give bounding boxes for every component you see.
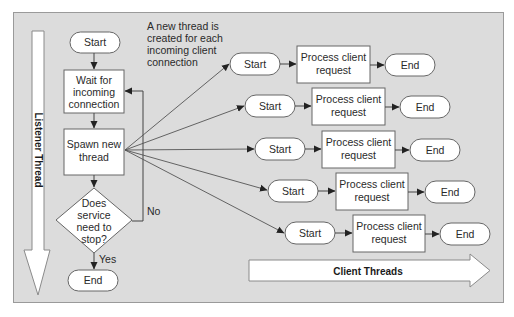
svg-text:connection: connection — [147, 56, 198, 68]
client-threads-label: Client Threads — [333, 266, 403, 277]
svg-text:Wait for: Wait for — [76, 74, 112, 86]
svg-text:End: End — [426, 144, 445, 156]
svg-text:service: service — [77, 209, 110, 221]
svg-text:Start: Start — [282, 185, 304, 197]
svg-text:Process client: Process client — [301, 51, 366, 63]
yes-label: Yes — [99, 253, 116, 265]
svg-text:incoming: incoming — [73, 86, 115, 98]
svg-text:End: End — [441, 186, 460, 198]
svg-text:request: request — [371, 233, 406, 245]
svg-text:Start: Start — [244, 58, 266, 70]
svg-text:request: request — [331, 106, 366, 118]
svg-text:need to: need to — [76, 221, 111, 233]
listener-thread-label: Listener Thread — [33, 112, 44, 187]
svg-text:Process client: Process client — [326, 136, 391, 148]
svg-text:Process client: Process client — [316, 93, 381, 105]
svg-text:request: request — [354, 191, 389, 203]
svg-text:request: request — [341, 149, 376, 161]
svg-text:End: End — [84, 274, 103, 286]
svg-text:A new thread is: A new thread is — [147, 20, 219, 32]
no-label: No — [147, 205, 161, 217]
svg-text:End: End — [456, 228, 475, 240]
svg-text:request: request — [316, 64, 351, 76]
svg-text:created for each: created for each — [147, 32, 223, 44]
svg-text:Start: Start — [269, 143, 291, 155]
svg-text:Spawn new: Spawn new — [67, 138, 122, 150]
svg-text:End: End — [401, 59, 420, 71]
svg-text:incoming client: incoming client — [147, 44, 217, 56]
svg-text:Start: Start — [84, 36, 106, 48]
client-server-thread-diagram: Listener Thread Start Wait for incoming … — [0, 0, 514, 317]
svg-text:thread: thread — [79, 151, 109, 163]
svg-text:Start: Start — [259, 100, 281, 112]
svg-text:Process client: Process client — [356, 220, 421, 232]
svg-text:stop?: stop? — [81, 233, 107, 245]
svg-text:Process client: Process client — [339, 178, 404, 190]
svg-text:connection: connection — [69, 98, 120, 110]
svg-text:Does: Does — [82, 197, 107, 209]
svg-text:End: End — [416, 101, 435, 113]
svg-text:Start: Start — [299, 227, 321, 239]
